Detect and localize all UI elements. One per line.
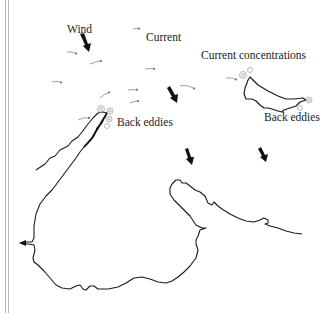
back-eddies-label-right: Back eddies	[264, 112, 320, 124]
coastline-map	[0, 0, 330, 313]
current-label: Current	[146, 32, 181, 44]
island-outline	[244, 77, 306, 112]
current-arrows	[52, 29, 237, 121]
wind-label: Wind	[67, 24, 92, 36]
bay-coastline-upper	[172, 180, 302, 234]
wind-arrow-4	[258, 147, 268, 162]
wind-arrow-1	[80, 33, 91, 52]
island-eddies	[240, 68, 313, 111]
diagram-canvas: Wind Current Current concentrations Back…	[0, 0, 330, 313]
wind-arrow-2	[167, 86, 178, 103]
back-eddies-label-left: Back eddies	[117, 117, 173, 129]
cape-marker	[19, 240, 26, 246]
peninsula-coastline	[21, 112, 206, 290]
wind-arrow-3	[185, 148, 194, 165]
current-concentrations-label: Current concentrations	[201, 50, 306, 62]
